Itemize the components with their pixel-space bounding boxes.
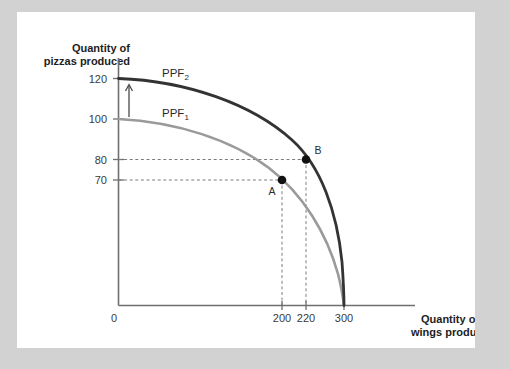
x-tick-label-200: 200 (273, 312, 291, 324)
data-point-b-label: B (314, 144, 321, 156)
x-axis-title-line2: wings produced (410, 326, 475, 338)
x-tick-label-300: 300 (335, 312, 353, 324)
y-tick-label-120: 120 (89, 73, 107, 85)
curve-label-ppf1: PPF1 (162, 107, 189, 122)
y-axis-title-line1: Quantity of (72, 42, 130, 54)
curve-ppf1 (119, 119, 345, 306)
y-tick-label-100: 100 (89, 113, 107, 125)
figure-card: Quantity of pizzas produced 120 100 80 7… (17, 12, 475, 348)
ppf-chart: Quantity of pizzas produced 120 100 80 7… (17, 12, 475, 348)
y-tick-label-80: 80 (95, 154, 107, 166)
x-axis-title-line1: Quantity of (421, 313, 475, 325)
chart-svg: Quantity of pizzas produced 120 100 80 7… (17, 12, 475, 348)
y-axis-title-line2: pizzas produced (44, 55, 130, 67)
data-point-a-label: A (268, 185, 275, 197)
data-point-b (302, 155, 311, 164)
curve-label-ppf2: PPF2 (162, 67, 189, 82)
x-tick-label-220: 220 (297, 312, 315, 324)
curve-ppf2 (119, 79, 345, 306)
y-tick-label-70: 70 (95, 174, 107, 186)
origin-label: 0 (111, 312, 117, 324)
data-point-a (278, 176, 287, 185)
